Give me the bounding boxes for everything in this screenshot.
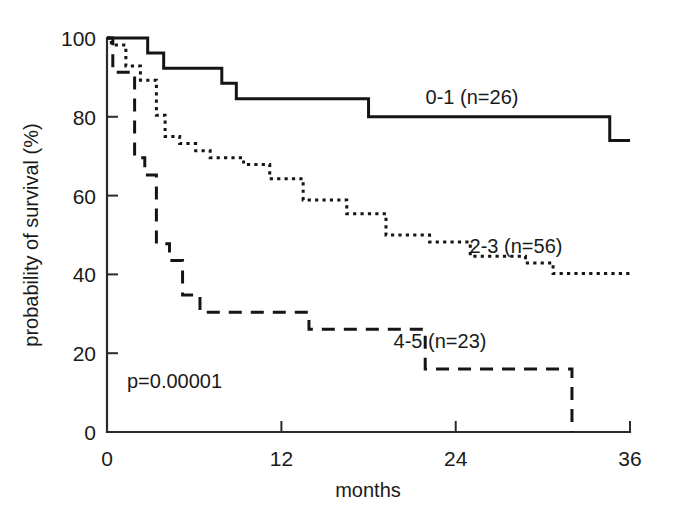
- kaplan-meier-plot: 100 80 60 40 20 0 0 12 24 36 months prob…: [0, 0, 680, 508]
- series-label-2-3: 2-3 (n=56): [470, 235, 563, 257]
- y-tick-label-0: 0: [84, 421, 96, 444]
- y-tick-label-60: 60: [73, 185, 96, 208]
- x-axis-title: months: [335, 479, 401, 501]
- y-tick-labels: 100 80 60 40 20 0: [61, 27, 96, 444]
- y-tick-marks: [107, 38, 118, 432]
- y-tick-label-100: 100: [61, 27, 96, 50]
- survival-curve-figure: 100 80 60 40 20 0 0 12 24 36 months prob…: [0, 0, 680, 508]
- series-label-4-5: 4-5 (n=23): [394, 330, 487, 352]
- y-axis-title: probability of survival (%): [20, 123, 42, 346]
- x-tick-label-12: 12: [270, 447, 293, 470]
- series-label-0-1: 0-1 (n=26): [426, 86, 519, 108]
- x-tick-labels: 0 12 24 36: [101, 447, 642, 470]
- y-tick-label-20: 20: [73, 342, 96, 365]
- y-tick-label-40: 40: [73, 263, 96, 286]
- y-tick-label-80: 80: [73, 106, 96, 129]
- p-value-annotation: p=0.00001: [127, 370, 222, 392]
- x-tick-label-24: 24: [444, 447, 468, 470]
- x-tick-marks: [107, 421, 630, 432]
- x-tick-label-36: 36: [618, 447, 641, 470]
- x-tick-label-0: 0: [101, 447, 113, 470]
- survival-curve-0-1: [107, 38, 630, 140]
